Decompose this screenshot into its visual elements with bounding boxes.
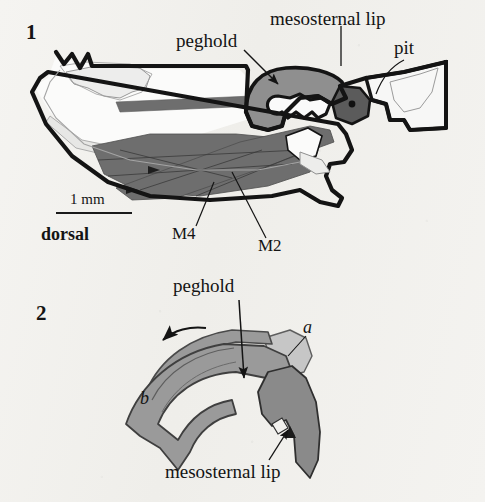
rotation-arrow [163,328,206,341]
panel2-label-peghold: peghold [173,276,234,295]
figure-artwork [0,0,485,502]
figure-page: 1 peghold mesosternal lip pit M4 M2 1 mm… [0,0,485,502]
panel2-drawing [126,300,320,478]
panel2-label-mesosternal-lip: mesosternal lip [165,462,281,481]
orientation-label-dorsal: dorsal [41,225,89,243]
panel1-label-mesosternal-lip: mesosternal lip [270,9,386,28]
panel1-label-m2: M2 [258,237,282,254]
panel1-number: 1 [26,22,37,43]
scale-bar-text: 1 mm [70,192,105,207]
panel1-label-m4: M4 [172,225,196,242]
panel2-label-part-a: a [303,318,312,336]
lip-pit-dot [349,101,356,108]
panel1-label-peghold: peghold [176,31,237,50]
panel1-label-pit: pit [394,38,414,57]
scale-bar-line [56,212,132,214]
panel2-label-part-b: b [140,389,149,407]
leader-mesosternal-lip-2 [269,430,288,460]
panel2-number: 2 [36,303,47,324]
